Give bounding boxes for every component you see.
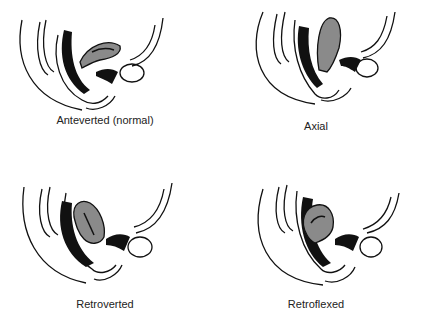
anteverted-illustration <box>0 0 210 160</box>
panel-retroflexed: Retroflexed <box>211 161 421 321</box>
caption-retroverted: Retroverted <box>0 298 210 310</box>
retroflexed-illustration <box>211 161 421 321</box>
panel-retroverted: Retroverted <box>0 161 210 321</box>
panel-anteverted: Anteverted (normal) <box>0 0 210 160</box>
caption-retroflexed: Retroflexed <box>211 298 421 310</box>
panel-axial: Axial <box>211 0 421 160</box>
caption-axial: Axial <box>211 120 421 132</box>
caption-anteverted: Anteverted (normal) <box>0 114 210 126</box>
axial-illustration <box>211 0 421 160</box>
retroverted-illustration <box>0 161 210 321</box>
